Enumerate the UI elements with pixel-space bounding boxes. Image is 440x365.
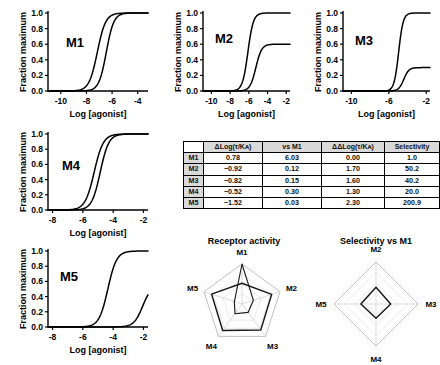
x-tick-label: -6 (79, 332, 87, 342)
radar-axis-label: M1 (236, 248, 248, 257)
table-cell-selectivity: 40.2 (385, 175, 440, 186)
y-tick-label: 0.2 (31, 70, 43, 80)
table-cell-dlog: 0.78 (204, 153, 263, 164)
panel-label: M2 (215, 31, 233, 46)
y-tick-label: 0.8 (186, 24, 198, 34)
y-tick-label: 0.4 (326, 55, 338, 65)
radar-axis-label: M2 (286, 284, 298, 293)
panel-label: M5 (60, 269, 78, 284)
y-axis-title: Fraction maximum (18, 12, 28, 92)
table-cell-receptor: M4 (184, 186, 204, 197)
panel-m2: 1.00.80.60.40.20.0-10-8-6-4-2M2Fraction … (155, 5, 300, 131)
radar-axis-label: M5 (187, 284, 199, 293)
x-tick-label: -6 (385, 96, 393, 106)
x-tick-label: -2 (282, 96, 290, 106)
radar-axis-label: M4 (206, 342, 218, 351)
table-cell-selectivity: 200.9 (385, 198, 440, 209)
y-tick-label: 0.6 (326, 39, 338, 49)
panel-m4: 1.00.80.60.40.20.0-8-6-4-2M4Fraction max… (0, 126, 160, 248)
x-tick-label: -8 (49, 215, 57, 225)
panel-label: M3 (355, 33, 373, 48)
x-tick-label: -6 (79, 215, 87, 225)
x-tick-label: -4 (134, 96, 142, 106)
y-tick-label: 0.0 (31, 86, 43, 96)
radar-selectivity-vs-m1: Selectivity vs M1M2M3M4M5 (312, 232, 440, 362)
table-header-ddlog: ΔΔLog(τ/Kᴀ) (322, 142, 385, 153)
y-axis-title: Fraction maximum (18, 249, 28, 329)
table-header-row: ΔLog(τ/Kᴀ) vs M1 ΔΔLog(τ/Kᴀ) Selectivity (184, 142, 440, 153)
x-tick-label: -8 (83, 96, 91, 106)
table-cell-selectivity: 1.0 (385, 153, 440, 164)
x-tick-label: -2 (422, 96, 430, 106)
table-cell-ddlog: 2.30 (322, 198, 385, 209)
radar-axis-label: M3 (425, 300, 437, 309)
x-axis-title: Log [agonist] (358, 109, 415, 119)
y-tick-label: 0.8 (31, 261, 43, 271)
radar-title: Receptor activity (208, 236, 281, 246)
dose-response-curve (343, 13, 430, 91)
x-axis-title: Log [agonist] (70, 228, 127, 238)
radar-receptor-activity: Receptor activityM1M2M3M4M5 (178, 232, 310, 362)
y-tick-label: 0.4 (31, 55, 43, 65)
chart-m5: 1.00.80.60.40.20.0-8-6-4-2M5Fraction max… (0, 243, 160, 363)
x-tick-label: -10 (205, 96, 218, 106)
y-tick-label: 0.8 (326, 24, 338, 34)
x-tick-label: -6 (245, 96, 253, 106)
table-cell-dlog: −0.82 (204, 175, 263, 186)
x-tick-label: -4 (109, 332, 117, 342)
dose-response-curve (48, 251, 148, 327)
y-axis-title: Fraction maximum (173, 12, 183, 92)
table-cell-ddlog: 1.60 (322, 175, 385, 186)
x-tick-label: -4 (264, 96, 272, 106)
y-tick-label: 0.6 (31, 276, 43, 286)
panel-receptor-activity-radar: Receptor activityM1M2M3M4M5 (178, 232, 310, 365)
panel-m5: 1.00.80.60.40.20.0-8-6-4-2M5Fraction max… (0, 243, 160, 365)
table-row: M4−0.520.301.3020.0 (184, 186, 440, 197)
table-header-vs-m1: vs M1 (263, 142, 322, 153)
dose-response-curve (343, 68, 430, 91)
table-row: M3−0.820.151.6040.2 (184, 175, 440, 186)
x-tick-label: -2 (140, 215, 148, 225)
y-tick-label: 0.4 (31, 292, 43, 302)
y-tick-label: 0.8 (31, 24, 43, 34)
y-tick-label: 0.4 (31, 175, 43, 185)
x-axis-title: Log [agonist] (70, 109, 127, 119)
y-tick-label: 0.6 (31, 39, 43, 49)
y-tick-label: 0.2 (326, 70, 338, 80)
y-tick-label: 0.0 (186, 86, 198, 96)
dose-response-curve (203, 44, 290, 91)
panel-label: M4 (62, 158, 81, 173)
table-cell-ddlog: 0.00 (322, 153, 385, 164)
dose-response-curve (48, 295, 148, 327)
table-cell-receptor: M1 (184, 153, 204, 164)
table-cell-receptor: M3 (184, 175, 204, 186)
y-tick-label: 0.4 (186, 55, 198, 65)
table-cell-dlog: −1.52 (204, 198, 263, 209)
x-axis-title: Log [agonist] (70, 345, 127, 355)
x-tick-label: -10 (345, 96, 358, 106)
radar-axis-label: M2 (370, 245, 382, 254)
chart-m4: 1.00.80.60.40.20.0-8-6-4-2M4Fraction max… (0, 126, 160, 244)
y-tick-label: 0.2 (31, 190, 43, 200)
table-cell-selectivity: 50.2 (385, 164, 440, 175)
table-row: M5−1.520.032.30200.9 (184, 198, 440, 209)
x-tick-label: -8 (226, 96, 234, 106)
chart-m1: 1.00.80.60.40.20.0-10-8-6-4M1Fraction ma… (0, 5, 160, 127)
table-cell-dlog: −0.52 (204, 186, 263, 197)
table-row: M2−0.920.121.7050.2 (184, 164, 440, 175)
x-tick-label: -10 (55, 96, 68, 106)
y-tick-label: 1.0 (326, 8, 338, 18)
y-tick-label: 0.8 (31, 144, 43, 154)
y-tick-label: 0.0 (31, 205, 43, 215)
table-cell-receptor: M2 (184, 164, 204, 175)
radar-series-polygon (212, 283, 272, 330)
y-tick-label: 1.0 (186, 8, 198, 18)
x-tick-label: -6 (108, 96, 116, 106)
table-header-dlog: ΔLog(τ/Kᴀ) (204, 142, 263, 153)
y-tick-label: 1.0 (31, 246, 43, 256)
panel-selectivity-radar: Selectivity vs M1M2M3M4M5 (312, 232, 440, 365)
chart-m2: 1.00.80.60.40.20.0-10-8-6-4-2M2Fraction … (155, 5, 300, 127)
y-tick-label: 0.6 (31, 159, 43, 169)
y-tick-label: 0.6 (186, 39, 198, 49)
radar-axis-label: M5 (315, 300, 327, 309)
